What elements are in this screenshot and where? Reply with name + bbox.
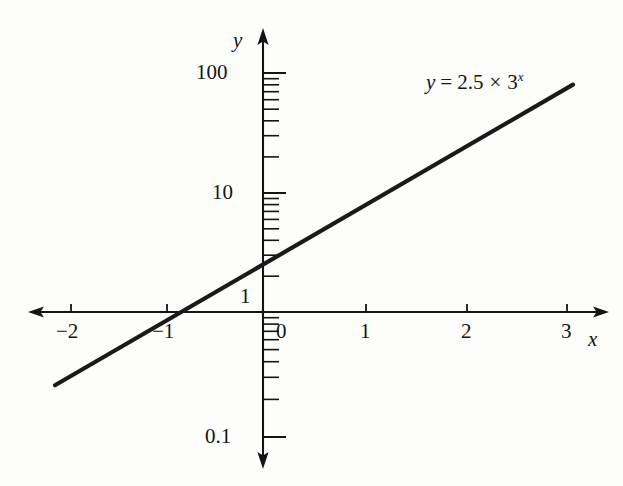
equation-exponent: x xyxy=(518,69,524,84)
x-axis-ticks xyxy=(71,304,567,312)
x-tick-label-minus2: −2 xyxy=(56,321,78,342)
x-axis xyxy=(28,307,609,318)
equation-coefficient: 2.5 xyxy=(457,70,483,94)
y-axis xyxy=(257,28,268,469)
x-tick-label-3: 3 xyxy=(561,321,572,342)
equation-times-sign: × xyxy=(489,70,501,94)
equation-lhs: y xyxy=(426,70,435,94)
plot-canvas xyxy=(0,0,623,486)
equation-annotation: y=2.5×3x xyxy=(426,72,524,93)
x-tick-label-1: 1 xyxy=(360,321,371,342)
curve-y-equals-2p5-times-3-pow-x xyxy=(55,85,573,386)
x-axis-label: x xyxy=(588,329,597,350)
equation-equals-sign: = xyxy=(440,70,452,94)
x-tick-label-0: 0 xyxy=(276,321,287,342)
y-tick-label-100: 100 xyxy=(196,62,228,83)
y-axis-minor-ticks-decade-10-100 xyxy=(263,79,279,157)
x-tick-label-minus1: −1 xyxy=(152,321,174,342)
semilog-chart-figure: y x 100 10 1 0.1 −2 −1 0 1 2 3 y=2.5×3x xyxy=(0,0,623,486)
y-axis-label: y xyxy=(233,30,242,51)
y-tick-label-0point1: 0.1 xyxy=(205,426,231,447)
y-tick-label-10: 10 xyxy=(212,182,233,203)
x-tick-label-2: 2 xyxy=(461,321,472,342)
y-tick-label-1: 1 xyxy=(240,286,251,307)
equation-base: 3 xyxy=(507,70,518,94)
